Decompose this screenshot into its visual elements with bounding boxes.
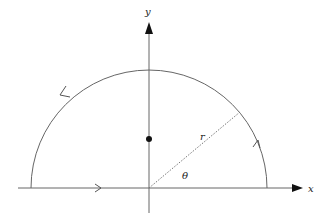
x-axis-arrowhead-icon xyxy=(292,184,303,192)
arc-right-direction-arrow-icon xyxy=(253,140,260,148)
radius-label: r xyxy=(200,131,206,142)
y-axis-arrowhead-icon xyxy=(145,22,153,34)
angle-label: θ xyxy=(182,170,188,181)
contour-diagram: x y r θ xyxy=(0,0,323,223)
y-axis-label: y xyxy=(144,6,151,17)
arc-left-direction-arrow-icon xyxy=(60,86,70,97)
pole-point xyxy=(146,136,152,142)
radius-line xyxy=(149,112,240,188)
x-axis-label: x xyxy=(308,183,314,194)
